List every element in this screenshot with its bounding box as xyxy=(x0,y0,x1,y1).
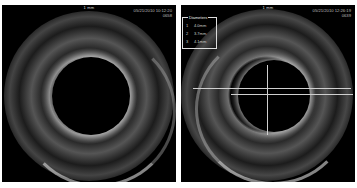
diameter-line-vertical xyxy=(267,65,268,135)
diameter-row: 34.1mm xyxy=(186,39,206,44)
diameter-row: 14.0mm xyxy=(186,23,206,28)
scale-bar-label: 1 mm xyxy=(84,5,95,10)
diameters-box: Diameters 14.0mm 23.7mm 34.1mm xyxy=(182,17,217,49)
diameter-line-horizontal-2 xyxy=(231,94,353,95)
timestamp: 05/21/2010 10:12:20 0658 xyxy=(134,8,172,18)
scale-bar-label: 1 mm xyxy=(263,5,274,10)
ivus-panel-right: 1 mm 05/21/2010 12:26:19 0639 Diameters … xyxy=(181,5,355,182)
frame-number: 0658 xyxy=(134,13,172,18)
diameters-title: Diameters xyxy=(188,15,208,20)
timestamp: 05/21/2010 12:26:19 0639 xyxy=(313,8,351,18)
diameter-line-horizontal-1 xyxy=(193,88,351,89)
ivus-panel-left: 1 mm 05/21/2010 10:12:20 0658 xyxy=(2,5,176,182)
frame-number: 0639 xyxy=(313,13,351,18)
outer-bright-arc xyxy=(195,33,351,182)
outer-bright-arc xyxy=(20,35,176,182)
diameter-row: 23.7mm xyxy=(186,31,206,36)
